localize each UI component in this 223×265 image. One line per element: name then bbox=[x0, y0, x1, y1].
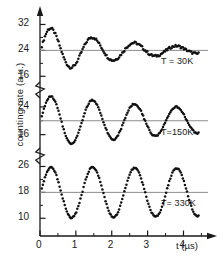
x-axis-label: t (µs) bbox=[176, 240, 198, 251]
x-tick-label: 3 bbox=[144, 239, 150, 250]
y-tick-label: 32 bbox=[18, 17, 29, 28]
x-tick-label: 0 bbox=[36, 239, 42, 250]
panel-temperature-label: T = 30K bbox=[161, 56, 193, 66]
y-tick-label: 10 bbox=[18, 211, 29, 222]
panel-temperature-label: T= 330K bbox=[161, 198, 196, 208]
figure: counting rate (a.u.) 01234t (µs)322416T … bbox=[0, 0, 223, 265]
y-tick-label: 24 bbox=[18, 100, 29, 111]
panel-temperature-label: T=150K bbox=[161, 127, 193, 137]
y-tick-label: 16 bbox=[18, 128, 29, 139]
x-tick-label: 1 bbox=[72, 239, 78, 250]
y-tick-label: 18 bbox=[18, 185, 29, 196]
y-tick-label: 24 bbox=[18, 43, 29, 54]
x-tick-label: 2 bbox=[108, 239, 114, 250]
y-tick-label: 16 bbox=[18, 69, 29, 80]
y-tick-label: 26 bbox=[18, 159, 29, 170]
